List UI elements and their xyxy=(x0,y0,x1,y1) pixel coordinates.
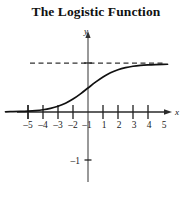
figure-logistic-function: The Logistic Function y x –1 xyxy=(0,0,192,218)
x-tick-label-1: 1 xyxy=(102,120,107,130)
y-tick-label-minus-1: –1 xyxy=(70,156,81,166)
x-tick-label-2: 2 xyxy=(117,120,122,130)
x-tick-label-minus-5: –5 xyxy=(22,120,33,130)
x-tick-label-minus-4: –4 xyxy=(37,120,48,130)
logistic-function-plot: y x –1 –5 –4 –3 –2 –1 1 2 xyxy=(0,0,192,218)
x-tick-label-minus-2: –2 xyxy=(67,120,78,130)
x-tick-label-5: 5 xyxy=(162,120,167,130)
x-tick-label-3: 3 xyxy=(132,120,137,130)
x-axis-label: x xyxy=(174,107,179,117)
x-tick-label-4: 4 xyxy=(147,120,152,130)
x-tick-label-minus-3: –3 xyxy=(52,120,63,130)
logistic-curve xyxy=(6,64,168,112)
y-axis-label: y xyxy=(83,26,88,36)
x-tick-label-minus-1: –1 xyxy=(81,120,92,130)
